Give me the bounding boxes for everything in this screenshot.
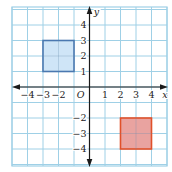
x-tick-label: 1 <box>102 89 108 100</box>
y-tick-label: 2 <box>80 50 86 61</box>
x-tick-label: −4 <box>20 89 34 100</box>
coordinate-plane: −4−3−212344321−2−3−4Oxy <box>0 0 172 172</box>
y-tick-label: −2 <box>72 112 86 123</box>
x-tick-label: −3 <box>36 89 50 100</box>
x-tick-label: 3 <box>133 89 139 100</box>
y-axis-label: y <box>93 6 100 17</box>
x-tick-label: 4 <box>148 89 154 100</box>
x-axis-arrow-left-icon <box>12 84 20 90</box>
x-axis-label: x <box>162 89 168 100</box>
y-tick-label: 4 <box>80 19 86 30</box>
y-tick-label: 1 <box>80 66 86 77</box>
x-tick-label: −2 <box>51 89 65 100</box>
x-tick-label: 2 <box>117 89 123 100</box>
y-tick-label: 3 <box>80 35 86 46</box>
y-tick-label: −3 <box>72 128 86 139</box>
origin-label: O <box>77 89 85 100</box>
y-tick-label: −4 <box>72 143 86 154</box>
